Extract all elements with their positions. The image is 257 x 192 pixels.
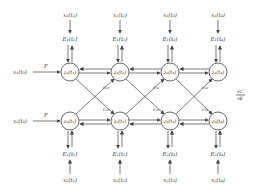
cross-label-c12: c₁₂ [103,85,110,90]
top-input-label: x₁(t₁) [63,12,77,18]
top-state-label: z₁(t₄) [211,69,225,75]
cross-label-c21: c₂₁ [103,107,110,112]
bottom-error-label: E₂(t₂) [112,151,128,157]
top-input-label: x₁(t₃) [163,12,177,18]
cross-label-c21: c₂₁ [202,107,209,112]
F-bottom-label: F [43,112,48,118]
bottom-state-label: z₂(t₁) [63,118,77,124]
bottom-state-label: z₂(t₄) [211,118,225,124]
top-state-label: z₁(t₃) [163,69,177,75]
bottom-input-label: x₂(t₁) [63,177,77,183]
bottom-input-label: x₂(t₄) [211,177,225,183]
rnn-unrolled-diagram: x₁(t₁)E₁(t₁)z₁(t₁)z₂(t₁)E₂(t₁)x₂(t₁)x₁(t… [0,0,257,192]
top-error-label: E₁(t₂) [112,36,128,42]
left-bottom-input-label: x₂(t₀) [13,118,27,124]
cross-label-c21: c₂₁ [153,107,160,112]
bottom-input-label: x₂(t₂) [113,177,127,183]
gradient-numerator: ∂C [237,89,243,94]
top-error-label: E₁(t₁) [62,36,78,42]
bottom-error-label: E₂(t₁) [62,151,78,157]
F-top-label: F [43,63,48,69]
top-input-label: x₁(t₄) [211,12,225,18]
bottom-state-label: z₂(t₂) [113,118,127,124]
bottom-error-label: E₂(t₄) [210,151,226,157]
cross-label-c12: c₁₂ [202,85,209,90]
bottom-input-label: x₂(t₃) [163,177,177,183]
top-state-label: z₁(t₂) [113,69,127,75]
top-error-label: E₁(t₄) [210,36,226,42]
top-error-label: E₁(t₃) [162,36,178,42]
cross-label-c12: c₁₂ [153,85,160,90]
top-state-label: z₁(t₁) [63,69,77,75]
left-top-input-label: x₁(t₀) [13,69,27,75]
bottom-state-label: z₂(t₃) [163,118,177,124]
bottom-error-label: E₂(t₃) [162,151,178,157]
gradient-denominator: ∂K [237,96,243,101]
top-input-label: x₁(t₂) [113,12,127,18]
